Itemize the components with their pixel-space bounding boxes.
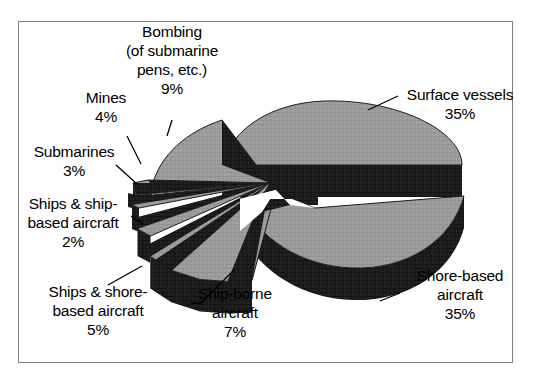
slice-label-ship-borne-aircraft: Ship-borne aircraft 7% bbox=[176, 284, 294, 341]
pie-chart-page: Bombing (of submarine pens, etc.) 9% Min… bbox=[0, 0, 533, 381]
ship-borne-line-1: Ship-borne bbox=[198, 285, 272, 302]
ship-borne-line-2: aircraft bbox=[212, 304, 258, 321]
mines-line-1: Mines bbox=[86, 89, 126, 106]
leader-line-bombing bbox=[167, 120, 172, 136]
shore-based-line-2: aircraft bbox=[437, 286, 483, 303]
submarines-line-1: Submarines bbox=[34, 143, 115, 160]
ships-ship-based-line-1: Ships & ship- bbox=[29, 195, 118, 212]
ships-shore-based-line-1: Ships & shore- bbox=[49, 283, 148, 300]
surface-vessels-line-1: Surface vessels bbox=[407, 86, 513, 103]
ships-shore-based-percent: 5% bbox=[30, 320, 166, 339]
slice-label-submarines: Submarines 3% bbox=[14, 142, 134, 180]
ship-borne-percent: 7% bbox=[176, 322, 294, 341]
mines-percent: 4% bbox=[72, 107, 140, 126]
slice-label-ships-shore-based-aircraft: Ships & shore- based aircraft 5% bbox=[30, 282, 166, 339]
ships-ship-based-percent: 2% bbox=[6, 232, 140, 251]
bombing-line-2: (of submarine bbox=[126, 42, 218, 59]
slice-label-bombing: Bombing (of submarine pens, etc.) 9% bbox=[104, 22, 240, 98]
submarines-percent: 3% bbox=[14, 161, 134, 180]
bombing-line-1: Bombing bbox=[142, 23, 202, 40]
slice-label-mines: Mines 4% bbox=[72, 88, 140, 126]
ships-shore-based-line-2: based aircraft bbox=[52, 302, 143, 319]
slice-label-shore-based-aircraft: Shore-based aircraft 35% bbox=[398, 266, 522, 323]
bombing-line-3: pens, etc.) bbox=[137, 61, 207, 78]
shore-based-percent: 35% bbox=[398, 304, 522, 323]
slice-label-ships-ship-based-aircraft: Ships & ship- based aircraft 2% bbox=[6, 194, 140, 251]
shore-based-line-1: Shore-based bbox=[417, 267, 504, 284]
slice-label-surface-vessels: Surface vessels 35% bbox=[398, 85, 522, 123]
surface-vessels-percent: 35% bbox=[398, 104, 522, 123]
ships-ship-based-line-2: based aircraft bbox=[27, 214, 118, 231]
